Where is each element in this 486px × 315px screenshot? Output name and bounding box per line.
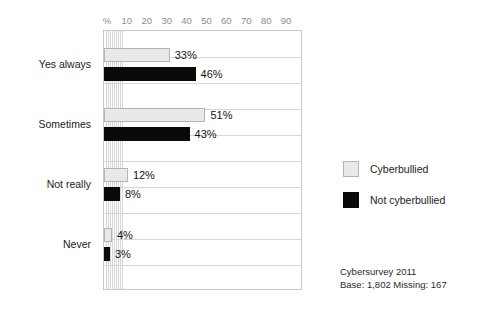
bar-value-label: 46%	[197, 67, 223, 81]
plot-area: 33%46%51%43%12%8%4%3%	[103, 30, 302, 290]
bar-cyberbullied	[104, 48, 170, 62]
legend: CyberbulliedNot cyberbullied	[343, 160, 445, 222]
chart-source-note: Cybersurvey 2011 Base: 1,802 Missing: 16…	[340, 266, 447, 291]
bar-value-label: 43%	[191, 127, 217, 141]
bar-value-label: 4%	[113, 228, 133, 242]
legend-item: Cyberbullied	[343, 160, 445, 177]
bar-cyberbullied	[104, 228, 112, 242]
y-axis-category-label: Not really	[0, 178, 91, 190]
gridline-horizontal	[104, 161, 301, 162]
gridline-horizontal	[104, 239, 301, 240]
bar-value-label: 12%	[129, 168, 155, 182]
legend-label: Not cyberbullied	[370, 194, 445, 206]
bar-value-label: 51%	[206, 108, 232, 122]
bar-not-cyberbullied	[104, 67, 196, 81]
y-axis-category-label: Yes always	[0, 58, 91, 70]
bar-chart: %102030405060708090 33%46%51%43%12%8%4%3…	[0, 0, 486, 315]
y-axis-category-label: Never	[0, 238, 91, 250]
legend-label: Cyberbullied	[370, 163, 428, 175]
gridline-horizontal	[104, 213, 301, 214]
x-axis-tick-label: 90	[273, 14, 299, 28]
bar-not-cyberbullied	[104, 247, 110, 261]
bar-value-label: 8%	[121, 187, 141, 201]
bar-not-cyberbullied	[104, 127, 190, 141]
legend-swatch-icon	[343, 192, 359, 208]
bar-cyberbullied	[104, 108, 205, 122]
x-axis-tick-labels: %102030405060708090	[103, 14, 302, 28]
gridline-horizontal	[104, 265, 301, 266]
bar-not-cyberbullied	[104, 187, 120, 201]
bar-value-label: 3%	[111, 247, 131, 261]
source-line-1: Cybersurvey 2011	[340, 266, 447, 279]
source-line-2: Base: 1,802 Missing: 167	[340, 279, 447, 292]
legend-item: Not cyberbullied	[343, 191, 445, 208]
legend-swatch-icon	[343, 161, 359, 177]
gridline-horizontal	[104, 83, 301, 84]
bar-cyberbullied	[104, 168, 128, 182]
bar-value-label: 33%	[171, 48, 197, 62]
y-axis-category-label: Sometimes	[0, 118, 91, 130]
